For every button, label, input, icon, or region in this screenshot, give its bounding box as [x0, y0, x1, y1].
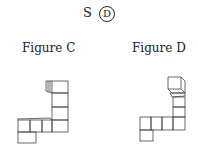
figure-d [140, 77, 185, 141]
cube-figures [0, 0, 198, 152]
figure-c [17, 81, 68, 143]
